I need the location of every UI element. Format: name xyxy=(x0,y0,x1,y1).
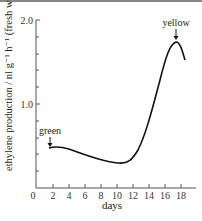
y-axis-label: ethylene production / nl g⁻¹ h⁻¹ (fresh … xyxy=(2,31,14,171)
x-ticks xyxy=(53,184,181,188)
green-annotation: green xyxy=(39,125,61,136)
yellow-annotation: yellow xyxy=(162,17,190,28)
chart-plot: 2.0 1.0 0 2 4 6 8 10 12 14 16 18 green y… xyxy=(0,0,202,221)
ethylene-curve xyxy=(49,42,185,163)
yellow-arrowhead-icon xyxy=(174,36,179,40)
y-tick-label-1: 1.0 xyxy=(21,99,34,110)
y-tick-label-2: 2.0 xyxy=(21,15,34,26)
green-arrowhead-icon xyxy=(48,143,53,147)
y-ticks xyxy=(36,20,40,171)
x-axis-label: days xyxy=(0,199,202,211)
